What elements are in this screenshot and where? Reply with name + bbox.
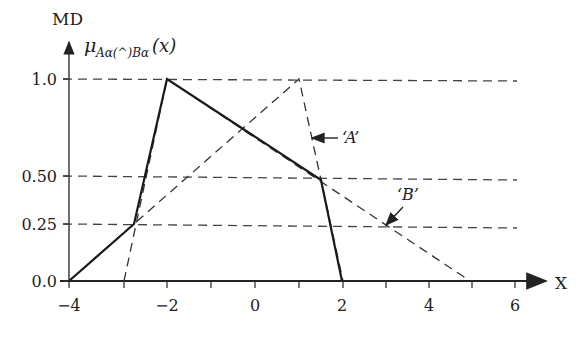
y-ticks — [63, 79, 69, 281]
annotation-b-arrow — [386, 207, 403, 225]
x-axis-title: X — [555, 273, 568, 293]
y-axis-label-arg: (x) — [152, 35, 176, 56]
x-tick-0: 0 — [250, 296, 260, 315]
intersection-line — [69, 79, 342, 281]
y-axis-label-mu: μ — [84, 34, 96, 56]
x-tick-m2: −2 — [155, 296, 179, 315]
x-tick-6: 6 — [510, 296, 520, 315]
y-axis-label-sub: Aα(^)Bα — [95, 46, 149, 60]
x-tick-2: 2 — [337, 296, 347, 315]
series-a-line — [69, 79, 343, 281]
annotation-b: ‘B’ — [397, 185, 419, 204]
y-tick-050: 0.50 — [21, 167, 57, 186]
x-tick-4: 4 — [424, 296, 434, 315]
y-tick-0: 0.0 — [32, 272, 57, 291]
y-axis-title: MD — [52, 9, 83, 29]
annotation-a: ‘A’ — [342, 128, 359, 147]
y-tick-100: 1.0 — [32, 70, 57, 89]
y-tick-025: 0.25 — [21, 215, 57, 234]
x-tick-m4: −4 — [57, 296, 81, 315]
membership-chart: MD μ Aα(^)Bα (x) 1.0 0.50 0.25 0.0 −4 −2… — [0, 0, 579, 340]
series-b-line — [124, 79, 470, 281]
gridlines — [63, 79, 517, 228]
